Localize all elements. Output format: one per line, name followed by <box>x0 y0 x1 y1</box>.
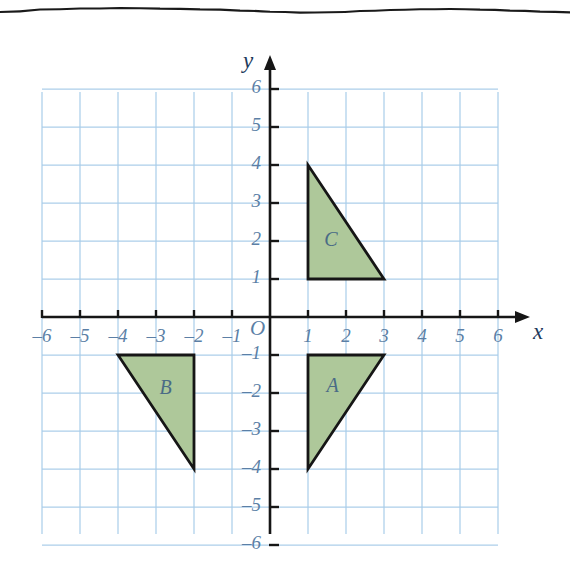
y-axis-label: y <box>241 48 254 73</box>
x-tick-label: 1 <box>303 325 313 346</box>
x-tick-label: 6 <box>493 325 503 346</box>
y-tick-label: 5 <box>252 114 262 135</box>
shape-label-b: B <box>159 376 171 398</box>
y-tick-label: –3 <box>241 418 261 439</box>
x-axis-label: x <box>532 319 544 344</box>
y-tick-label: 1 <box>252 266 262 287</box>
origin-label: O <box>250 316 265 340</box>
x-tick-label: 5 <box>455 325 465 346</box>
coordinate-plane-figure: –6–5–4–3–2–1123456 654321–1–2–3–4–5–6 O … <box>0 0 570 572</box>
x-tick-label: 2 <box>341 325 351 346</box>
x-axis-tick-labels: –6–5–4–3–2–1123456 <box>32 325 504 346</box>
x-tick-label: –2 <box>184 325 205 346</box>
y-tick-label: –4 <box>241 456 262 477</box>
x-tick-label: 4 <box>417 325 427 346</box>
shape-label-a: A <box>325 374 340 396</box>
y-axis-tick-labels: 654321–1–2–3–4–5–6 <box>241 76 262 553</box>
worksheet-page: –6–5–4–3–2–1123456 654321–1–2–3–4–5–6 O … <box>0 0 570 572</box>
shape-label-c: C <box>324 228 338 250</box>
y-tick-label: 2 <box>252 228 262 249</box>
y-tick-label: 4 <box>252 152 262 173</box>
x-axis-arrowhead <box>515 311 530 323</box>
x-tick-label: –3 <box>146 325 166 346</box>
y-tick-label: 6 <box>252 76 262 97</box>
y-tick-label: 3 <box>251 190 262 211</box>
x-tick-label: –4 <box>108 325 129 346</box>
y-tick-label: –6 <box>241 532 262 553</box>
x-tick-label: –6 <box>32 325 53 346</box>
x-tick-label: –1 <box>222 325 242 346</box>
x-tick-label: –5 <box>70 325 90 346</box>
torn-paper-edge <box>0 8 570 13</box>
x-tick-label: 3 <box>378 325 389 346</box>
y-tick-label: –1 <box>241 342 261 363</box>
y-tick-label: –2 <box>241 380 262 401</box>
y-tick-label: –5 <box>241 494 261 515</box>
y-axis-arrowhead <box>264 55 276 70</box>
